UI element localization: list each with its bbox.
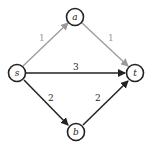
edge-label-s-a: 1 — [39, 33, 45, 43]
node-a: a — [67, 9, 84, 26]
edge-s-a: 1 — [23, 23, 68, 66]
edge-label-s-b: 2 — [48, 93, 54, 103]
edge-s-t: 3 — [26, 62, 125, 73]
svg-text:t: t — [133, 68, 137, 78]
node-b: b — [68, 124, 85, 141]
edge-s-b: 2 — [24, 80, 68, 125]
svg-text:b: b — [73, 127, 79, 137]
edge-a-t: 1 — [82, 23, 128, 66]
svg-text:s: s — [15, 68, 20, 78]
edge-b-t: 2 — [83, 81, 128, 125]
node-t: t — [127, 65, 144, 82]
edge-label-b-t: 2 — [95, 93, 101, 103]
svg-text:a: a — [72, 12, 77, 22]
flow-network-diagram: 1 1 3 2 2 s a t b — [0, 0, 149, 147]
edge-label-a-t: 1 — [108, 33, 114, 43]
node-s: s — [9, 65, 26, 82]
edge-label-s-t: 3 — [73, 62, 79, 72]
